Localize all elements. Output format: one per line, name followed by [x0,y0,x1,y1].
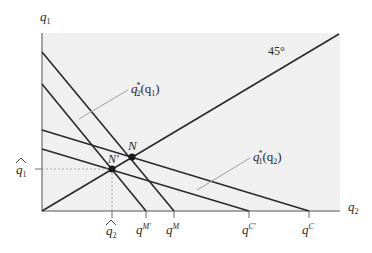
label-qM-prime: qM' [136,222,151,237]
label-q2-reaction-function: q*2(q1) [131,81,160,98]
label-N: N [127,138,138,153]
reaction-function-diagram: N N' 45° q1 q2 q*2(q1) q*1(q2) q1 q2 qM'… [0,0,372,253]
svg-text:q2: q2 [106,223,117,240]
x-axis-label: q2 [348,199,359,216]
label-qM: qM [166,222,181,237]
y-axis-label: q1 [40,9,51,26]
svg-text:q1: q1 [16,162,27,179]
label-qC-prime: qC' [242,222,256,237]
label-qC: qC [302,222,315,237]
equilibrium-point-N-prime [109,166,116,173]
label-N-prime: N' [107,152,119,166]
label-q1-hat: q1 [16,158,27,179]
label-45-degree: 45° [268,44,285,58]
equilibrium-point-N [129,154,136,161]
label-q2-hat: q2 [106,220,117,240]
label-q1-reaction-function: q*1(q2) [253,149,282,166]
